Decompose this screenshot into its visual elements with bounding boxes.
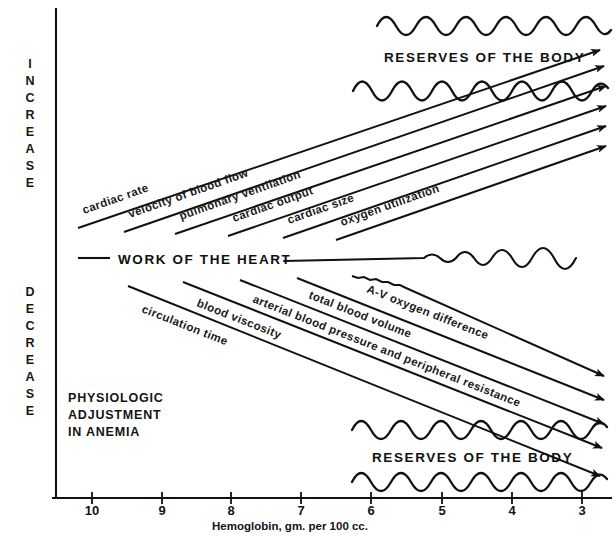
decrease-letter-1: E [26, 302, 34, 316]
increase-letter-1: N [25, 74, 34, 88]
increase-letter-4: E [26, 125, 34, 139]
increase-letter-5: A [25, 142, 34, 156]
increase-letter-3: R [25, 108, 34, 122]
decrease-letter-7: E [26, 404, 34, 418]
y-axis-decrease-label: D E C R E A S E [25, 285, 34, 418]
caption-line-3: IN ANEMIA [68, 425, 140, 439]
increase-curve-line-cardiac-size [283, 126, 606, 238]
caption-line-1: PHYSIOLOGIC [68, 391, 164, 405]
decrease-letter-2: C [25, 319, 34, 333]
x-axis-title: Hemoglobin, gm. per 100 cc. [212, 520, 368, 532]
reserves-wave-top-1 [377, 17, 611, 35]
work-of-the-heart-label: WORK OF THE HEART [118, 252, 291, 267]
decrease-letter-4: E [26, 353, 34, 367]
increase-letter-0: I [28, 57, 31, 71]
increase-curve-line-cardiac-output [228, 106, 606, 236]
increase-letter-2: C [25, 91, 34, 105]
decrease-curve-line-blood-viscosity [183, 282, 602, 448]
decrease-letter-5: A [25, 370, 34, 384]
x-tick-label-3: 3 [578, 503, 585, 518]
decrease-letter-3: R [25, 336, 34, 350]
increase-letter-7: E [26, 176, 34, 190]
reserves-wave-bottom-1 [352, 421, 607, 439]
x-tick-label-10: 10 [85, 503, 99, 518]
x-tick-label-7: 7 [297, 503, 304, 518]
x-tick-label-9: 9 [158, 503, 165, 518]
reserves-of-the-body-bottom: RESERVES OF THE BODY [372, 450, 573, 465]
reserves-wave-bottom-2 [352, 473, 607, 491]
x-tick-label-4: 4 [508, 503, 516, 518]
caption-line-2: ADJUSTMENT [68, 408, 161, 422]
reserves-of-the-body-top: RESERVES OF THE BODY [384, 50, 585, 65]
work-of-the-heart-group: WORK OF THE HEART [78, 248, 576, 269]
increase-curve-line-oxygen-utilization [336, 146, 606, 240]
x-tick-label-5: 5 [438, 503, 445, 518]
decrease-letter-0: D [25, 285, 34, 299]
increase-curve-labels: cardiac rate velocity of blood flow pulm… [81, 166, 441, 227]
x-tick-label-6: 6 [367, 503, 374, 518]
x-axis-ticks: 10 9 8 7 6 5 4 3 [85, 492, 586, 518]
diagram-canvas: I N C R E A S E D E C R E A S E 10 9 8 7… [0, 0, 616, 536]
y-axis-increase-label: I N C R E A S E [25, 57, 34, 190]
figure-caption: PHYSIOLOGIC ADJUSTMENT IN ANEMIA [68, 391, 164, 439]
work-of-the-heart-wave-right [284, 248, 576, 269]
increase-letter-6: S [26, 159, 34, 173]
increase-curve-group [78, 50, 606, 240]
x-tick-label-8: 8 [227, 503, 234, 518]
anemia-physiology-diagram: I N C R E A S E D E C R E A S E 10 9 8 7… [0, 0, 616, 536]
decrease-letter-6: S [26, 387, 34, 401]
